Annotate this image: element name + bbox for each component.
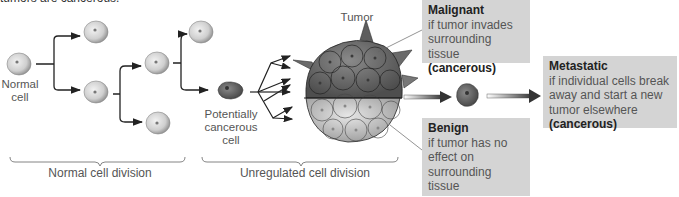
shed-cancer-cell-icon (457, 84, 479, 107)
malignant-leader-line (378, 30, 422, 52)
shed-arrow (404, 91, 452, 103)
daughter-cell-icon (84, 21, 108, 43)
normal-division-brace (10, 157, 185, 166)
metastatic-title: Metastatic (549, 59, 671, 74)
benign-leader-line (390, 125, 422, 150)
benign-box: Benign if tumor has no effect on surroun… (422, 118, 530, 196)
tumor-label: Tumor (330, 11, 384, 24)
benign-verdict: (noncancerous) (428, 194, 524, 197)
metastatic-box: Metastatic if individual cells break awa… (543, 56, 677, 128)
malignant-verdict: (cancerous) (428, 61, 524, 76)
normal-cell-icon (7, 53, 31, 75)
metastatic-verdict: (cancerous) (549, 117, 671, 132)
normal-cell-label: Normal cell (0, 78, 40, 104)
malignant-box: Malignant if tumor invades surrounding t… (422, 0, 530, 63)
granddaughter-cell-icon (146, 112, 170, 134)
great-granddaughter-cell-icon (189, 21, 213, 43)
potentially-cancerous-cell-icon (218, 82, 243, 99)
division-arrows (36, 34, 208, 122)
unregulated-division-label: Unregulated cell division (225, 167, 385, 180)
metastasis-arrow (487, 89, 541, 103)
granddaughter-cell-icon (145, 52, 169, 74)
normal-division-label: Normal cell division (20, 167, 180, 180)
unregulated-division-brace (202, 157, 398, 166)
malignant-title: Malignant (428, 3, 524, 18)
potentially-cancerous-label: Potentially cancerous cell (203, 108, 259, 147)
benign-title: Benign (428, 121, 524, 136)
tumor-icon (293, 20, 418, 142)
daughter-cell-icon (84, 81, 108, 103)
